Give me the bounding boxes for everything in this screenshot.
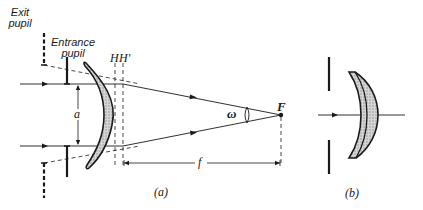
panel-b bbox=[318, 57, 405, 174]
label-H: H bbox=[110, 52, 119, 64]
label-f: f bbox=[198, 156, 201, 168]
diagram-svg bbox=[0, 0, 423, 210]
label-omega: ω bbox=[227, 107, 236, 120]
exit-pupil-label: Exit pupil bbox=[6, 7, 34, 29]
label-F: F bbox=[277, 100, 286, 113]
converging-ray-bottom bbox=[123, 115, 281, 146]
label-H-prime: H' bbox=[119, 52, 130, 64]
label-a: a bbox=[74, 108, 80, 120]
entrance-pupil-label: Entrance pupil bbox=[50, 37, 96, 59]
field-angle-arc bbox=[245, 107, 247, 123]
converging-ray-top bbox=[123, 84, 281, 115]
optics-diagram: Exit pupil Entrance pupil H H' a ω F f (… bbox=[0, 0, 423, 210]
caption-b: (b) bbox=[345, 187, 359, 199]
caption-a: (a) bbox=[154, 186, 168, 198]
entrance-pupil-label-line2: pupil bbox=[50, 48, 96, 59]
exit-pupil-label-line2: pupil bbox=[6, 18, 34, 29]
